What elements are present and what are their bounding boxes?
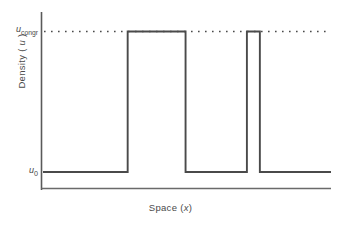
- x-axis-title-suffix: ): [189, 202, 192, 213]
- y-axis-title-variable: u: [16, 40, 27, 46]
- x-axis-title: Space (x): [0, 202, 341, 213]
- x-axis-title-prefix: Space (: [149, 202, 184, 213]
- y-axis-title-prefix: Density (: [16, 45, 27, 88]
- y-axis-title: Density ( u ): [16, 33, 27, 88]
- y-axis-title-container: Density ( u ): [11, 1, 25, 121]
- y-axis-title-suffix: ): [16, 33, 27, 39]
- y-tick-label-u-zero: u0: [0, 165, 38, 175]
- y-tick-label-u-zero-subscript: 0: [34, 169, 38, 178]
- chart-plot-area: [0, 0, 341, 229]
- chart-figure: ucongr u0 Density ( u ) Space (x): [0, 0, 341, 229]
- density-step-curve: [43, 32, 331, 173]
